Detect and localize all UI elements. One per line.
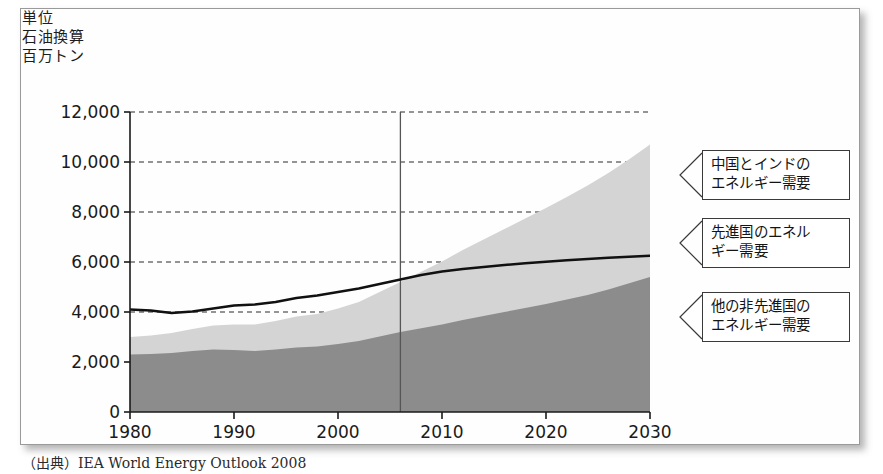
svg-text:2020: 2020 [524,422,567,442]
svg-text:2,000: 2,000 [71,352,120,372]
source-citation: （出典）IEA World Energy Outlook 2008 [22,452,306,472]
svg-text:2010: 2010 [420,422,463,442]
svg-text:0: 0 [109,402,120,422]
svg-text:4,000: 4,000 [71,302,120,322]
callout-leader-lines [680,153,702,339]
callout-other-developing: 他の非先進国の エネルギー需要 [702,292,850,342]
callout-developed: 先進国のエネル ギー需要 [702,218,850,268]
svg-text:1980: 1980 [108,422,151,442]
figure-container: 単位 石油換算 百万トン 02,0004,0006,0008,00010,000… [0,0,883,474]
callout-china-india: 中国とインドの エネルギー需要 [702,150,850,200]
svg-text:1990: 1990 [212,422,255,442]
svg-text:8,000: 8,000 [71,202,120,222]
svg-text:10,000: 10,000 [61,152,120,172]
svg-text:12,000: 12,000 [61,102,120,122]
stacked-areas [130,145,650,413]
svg-text:2030: 2030 [628,422,671,442]
svg-text:6,000: 6,000 [71,252,120,272]
svg-text:2000: 2000 [316,422,359,442]
